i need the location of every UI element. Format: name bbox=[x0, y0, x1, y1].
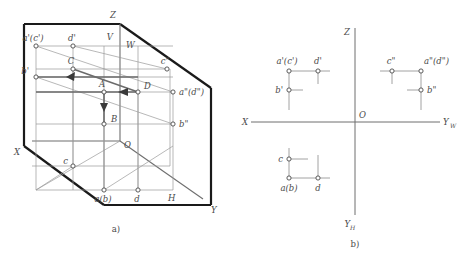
marker-c-h bbox=[71, 164, 75, 168]
axon-label-d-h: d bbox=[134, 194, 140, 204]
ortho-w-markers bbox=[390, 69, 423, 92]
ortho-label-ab-h: a(b) bbox=[280, 183, 297, 193]
marker-d-h bbox=[136, 188, 140, 192]
axon-label-point-d: D bbox=[143, 81, 151, 91]
segment-c-to-d-slant bbox=[73, 69, 138, 92]
marker-point-b bbox=[102, 122, 106, 126]
axon-label-c-h: c bbox=[63, 156, 68, 166]
ortho-marker-c-w bbox=[390, 69, 394, 73]
ortho-v-quadrant bbox=[289, 71, 330, 110]
axon-axis-label-y: Y bbox=[211, 205, 218, 215]
marker-point-c bbox=[71, 67, 75, 71]
axon-axis-label-x: X bbox=[13, 147, 21, 157]
ortho-marker-ad-w bbox=[419, 69, 423, 73]
axon-plane-label-v: V bbox=[107, 32, 114, 42]
caption-b: b) bbox=[351, 239, 360, 249]
emphasis-segments bbox=[36, 69, 138, 124]
ortho-label-d-h: d bbox=[315, 183, 321, 193]
ortho-label-b-w: b" bbox=[427, 85, 436, 95]
axon-label-b-v: b' bbox=[21, 66, 29, 76]
ortho-marker-b-v bbox=[287, 88, 291, 92]
ortho-axis-label-o: O bbox=[359, 110, 366, 120]
ortho-label-ac-v: a'(c') bbox=[276, 56, 297, 66]
ortho-h-markers bbox=[287, 157, 320, 180]
ortho-axis-label-x: X bbox=[241, 117, 249, 127]
ortho-marker-b-w bbox=[419, 88, 423, 92]
axonometric-axes bbox=[32, 24, 203, 199]
axon-label-point-c: C bbox=[68, 56, 75, 66]
vertical-droppers bbox=[73, 69, 138, 190]
marker-ac-v bbox=[34, 44, 38, 48]
ortho-marker-ac-v bbox=[287, 69, 291, 73]
axonometric-diagram: Z V W X Y O H a'(c') d' b' A B C D c" a"… bbox=[13, 10, 218, 234]
axon-plane-label-w: W bbox=[126, 40, 136, 50]
axon-axis-label-z: Z bbox=[109, 10, 117, 20]
marker-ad-w bbox=[171, 90, 175, 94]
axon-plane-label-h: H bbox=[167, 193, 176, 203]
ortho-w-quadrant bbox=[380, 71, 421, 110]
ortho-marker-ab-h bbox=[287, 176, 291, 180]
ortho-label-ad-w: a"(d") bbox=[424, 56, 449, 66]
axon-axis-label-o: O bbox=[124, 140, 131, 150]
ortho-h-quadrant bbox=[289, 148, 330, 178]
ortho-v-markers bbox=[287, 69, 320, 92]
axon-label-b-w: b" bbox=[179, 119, 188, 129]
caption-a: a) bbox=[112, 224, 120, 234]
ortho-marker-c-h bbox=[287, 157, 291, 161]
ortho-axis-label-z: Z bbox=[343, 27, 351, 37]
depth-line-h-mid bbox=[104, 146, 173, 190]
axon-label-c-w: c" bbox=[161, 56, 170, 66]
ortho-marker-d-v bbox=[316, 69, 320, 73]
axon-label-ad-w: a"(d") bbox=[179, 87, 204, 97]
marker-b-w bbox=[171, 122, 175, 126]
axon-label-point-a: A bbox=[98, 79, 105, 89]
figure-svg: Z V W X Y O H a'(c') d' b' A B C D c" a"… bbox=[0, 0, 468, 255]
axon-label-ab-h: a(b) bbox=[94, 194, 111, 204]
ortho-label-b-v: b' bbox=[275, 85, 283, 95]
ortho-axis-label-yh-group: Y H bbox=[344, 219, 356, 231]
figure-root: Z V W X Y O H a'(c') d' b' A B C D c" a"… bbox=[0, 0, 468, 255]
axon-label-d-v: d' bbox=[68, 33, 76, 43]
ortho-label-c-h: c bbox=[278, 154, 283, 164]
ortho-marker-d-h bbox=[316, 176, 320, 180]
ortho-axis-label-yh-sub: H bbox=[349, 224, 356, 231]
marker-d-v bbox=[71, 44, 75, 48]
marker-point-a bbox=[102, 90, 106, 94]
marker-ab-h bbox=[102, 188, 106, 192]
arrow-c-direction bbox=[66, 72, 75, 81]
marker-c-w bbox=[165, 67, 169, 71]
ortho-axis-label-yw-sub: W bbox=[450, 122, 457, 129]
ortho-axis-label-yw: Y bbox=[443, 117, 450, 127]
ortho-axis-label-yw-group: Y W bbox=[443, 117, 457, 129]
axon-label-point-b: B bbox=[110, 114, 117, 124]
ortho-label-d-v: d' bbox=[314, 56, 322, 66]
marker-point-d bbox=[136, 90, 140, 94]
ortho-label-c-w: c" bbox=[387, 56, 396, 66]
marker-b-v bbox=[34, 75, 38, 79]
arrow-a-to-b bbox=[100, 103, 108, 112]
axon-label-ac-v: a'(c') bbox=[22, 33, 43, 43]
orthographic-diagram: a'(c') d' b' c" a"(d") b" bbox=[241, 27, 457, 249]
